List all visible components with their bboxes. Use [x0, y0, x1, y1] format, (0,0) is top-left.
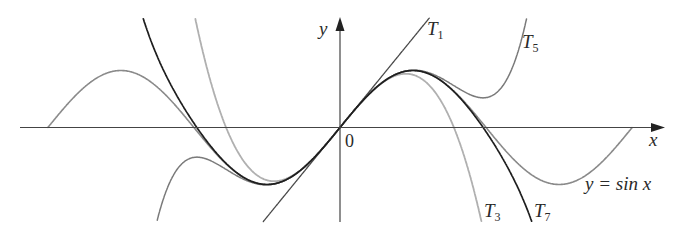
x-axis-label: x	[649, 130, 657, 149]
taylor-polynomial-chart	[0, 0, 676, 236]
t3-label: T3	[484, 201, 501, 223]
origin-label: 0	[345, 132, 354, 150]
t3-curve	[195, 19, 481, 221]
t5-label: T5	[522, 32, 539, 54]
y-axis-label: y	[319, 19, 327, 38]
t5-curve	[157, 19, 526, 220]
y-axis-arrow-icon	[336, 17, 345, 31]
t1-label: T1	[427, 19, 444, 41]
t7-label: T7	[534, 201, 551, 223]
sin-curve-label: y = sin x	[585, 174, 651, 193]
